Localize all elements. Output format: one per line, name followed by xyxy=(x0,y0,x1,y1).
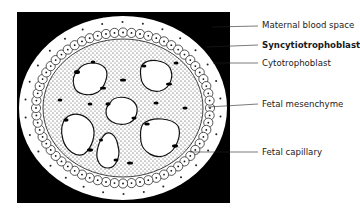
cytotrophoblast-nucleus xyxy=(207,92,209,94)
cytotrophoblast-nucleus xyxy=(114,182,116,184)
syncytiotrophoblast-nucleus xyxy=(29,81,31,83)
cytotrophoblast-nucleus xyxy=(184,54,186,56)
syncytiotrophoblast-nucleus xyxy=(101,23,103,25)
cytotrophoblast-nucleus xyxy=(199,143,201,145)
cytotrophoblast-nucleus xyxy=(131,32,133,34)
cytotrophoblast-nucleus xyxy=(114,32,116,34)
cytotrophoblast-nucleus xyxy=(45,143,47,145)
cytotrophoblast-nucleus xyxy=(139,181,141,183)
cytotrophoblast-nucleus xyxy=(61,161,63,163)
syncytiotrophoblast-nucleus xyxy=(50,165,52,167)
syncytiotrophoblast-nucleus xyxy=(65,177,67,179)
syncytiotrophoblast-nucleus xyxy=(64,38,66,40)
cytotrophoblast-nucleus xyxy=(194,149,196,151)
cytotrophoblast-nucleus xyxy=(37,92,39,94)
cytotrophoblast-nucleus xyxy=(177,166,179,168)
cytotrophoblast-nucleus xyxy=(89,37,91,39)
cytotrophoblast-nucleus xyxy=(131,182,133,184)
cytotrophoblast-nucleus xyxy=(207,122,209,124)
syncytiotrophoblast-nucleus xyxy=(25,116,27,118)
cytotrophoblast-nucleus xyxy=(74,170,76,172)
syncytiotrophoblast-nucleus xyxy=(82,29,84,31)
label-fetal-capillary: Fetal capillary xyxy=(262,148,322,157)
cytotrophoblast-nucleus xyxy=(37,122,39,124)
cytotrophoblast-nucleus xyxy=(55,155,57,157)
syncytiotrophoblast-nucleus xyxy=(143,191,145,193)
syncytiotrophoblast-nucleus xyxy=(142,23,144,25)
cytotrophoblast-nucleus xyxy=(36,100,38,102)
syncytiotrophoblast-nucleus xyxy=(161,28,163,30)
cytotrophoblast-nucleus xyxy=(194,65,196,67)
cytotrophoblast-nucleus xyxy=(42,78,44,80)
cytotrophoblast-nucleus xyxy=(199,72,201,74)
cytotrophoblast-nucleus xyxy=(81,174,83,176)
cytotrophoblast-nucleus xyxy=(61,54,63,56)
fetal-capillary xyxy=(106,97,137,124)
cytotrophoblast-nucleus xyxy=(50,65,52,67)
cytotrophoblast-nucleus xyxy=(97,179,99,181)
syncytiotrophoblast-nucleus xyxy=(220,116,222,118)
cytotrophoblast-nucleus xyxy=(163,41,165,43)
cytotrophoblast-nucleus xyxy=(155,37,157,39)
syncytiotrophoblast-nucleus xyxy=(207,150,209,152)
cytotrophoblast-nucleus xyxy=(67,49,69,51)
cytotrophoblast-nucleus xyxy=(177,49,179,51)
cytotrophoblast-nucleus xyxy=(42,136,44,138)
cytotrophoblast-nucleus xyxy=(97,35,99,37)
cytotrophoblast-nucleus xyxy=(189,155,191,157)
syncytiotrophoblast-nucleus xyxy=(122,21,124,23)
cytotrophoblast-nucleus xyxy=(170,44,172,46)
cytotrophoblast-nucleus xyxy=(139,33,141,35)
cytotrophoblast-nucleus xyxy=(36,115,38,117)
label-maternal-blood-space: Maternal blood space xyxy=(262,21,354,30)
cytotrophoblast-nucleus xyxy=(122,183,124,185)
cytotrophoblast-nucleus xyxy=(55,59,57,61)
cytotrophoblast-nucleus xyxy=(209,107,211,109)
syncytiotrophoblast-nucleus xyxy=(180,176,182,178)
label-syncytiotrophoblast: Syncytiotrophoblast xyxy=(262,41,360,50)
cytotrophoblast-nucleus xyxy=(67,166,69,168)
cytotrophoblast-nucleus xyxy=(209,100,211,102)
syncytiotrophoblast-nucleus xyxy=(207,64,209,66)
cytotrophoblast-nucleus xyxy=(163,174,165,176)
label-fetal-mesenchyme: Fetal mesenchyme xyxy=(262,100,343,109)
syncytiotrophoblast-nucleus xyxy=(195,164,197,166)
syncytiotrophoblast-nucleus xyxy=(25,98,27,100)
cytotrophoblast-nucleus xyxy=(155,177,157,179)
label-cytotrophoblast: Cytotrophoblast xyxy=(262,59,331,68)
syncytiotrophoblast-nucleus xyxy=(195,49,197,51)
cytotrophoblast-nucleus xyxy=(105,33,107,35)
syncytiotrophoblast-nucleus xyxy=(179,37,181,39)
syncytiotrophoblast-nucleus xyxy=(123,193,125,195)
syncytiotrophoblast-nucleus xyxy=(49,50,51,52)
cytotrophoblast-nucleus xyxy=(35,107,37,109)
cytotrophoblast-nucleus xyxy=(147,179,149,181)
cytotrophoblast-nucleus xyxy=(205,129,207,131)
cytotrophoblast-nucleus xyxy=(203,136,205,138)
cytotrophoblast-nucleus xyxy=(209,115,211,117)
cytotrophoblast-nucleus xyxy=(50,149,52,151)
cytotrophoblast-nucleus xyxy=(39,85,41,87)
cytotrophoblast-nucleus xyxy=(45,72,47,74)
syncytiotrophoblast-nucleus xyxy=(37,150,39,152)
cytotrophoblast-nucleus xyxy=(81,41,83,43)
syncytiotrophoblast-nucleus xyxy=(215,80,217,82)
cytotrophoblast-nucleus xyxy=(105,181,107,183)
syncytiotrophoblast-nucleus xyxy=(215,133,217,135)
syncytiotrophoblast-nucleus xyxy=(83,186,85,188)
syncytiotrophoblast-nucleus xyxy=(102,191,104,193)
syncytiotrophoblast-nucleus xyxy=(37,64,39,66)
syncytiotrophoblast-nucleus xyxy=(219,98,221,100)
cytotrophoblast-nucleus xyxy=(170,170,172,172)
cytotrophoblast-nucleus xyxy=(39,129,41,131)
cytotrophoblast-nucleus xyxy=(189,59,191,61)
syncytiotrophoblast-nucleus xyxy=(29,134,31,136)
cytotrophoblast-nucleus xyxy=(147,35,149,37)
cytotrophoblast-nucleus xyxy=(122,32,124,34)
cytotrophoblast-nucleus xyxy=(205,85,207,87)
cytotrophoblast-nucleus xyxy=(203,78,205,80)
cytotrophoblast-nucleus xyxy=(89,177,91,179)
cytotrophoblast-nucleus xyxy=(184,161,186,163)
syncytiotrophoblast-nucleus xyxy=(162,185,164,187)
cytotrophoblast-nucleus xyxy=(74,44,76,46)
